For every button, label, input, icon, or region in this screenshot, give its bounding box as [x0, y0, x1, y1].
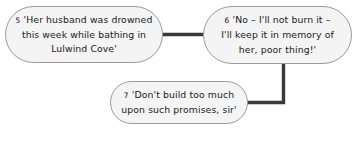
diagram-node-7-number: 7: [124, 91, 129, 100]
diagram-node-5-text: 'Her husband was drowned this week while…: [22, 14, 153, 54]
diagram-node-5-number: 5: [16, 16, 21, 25]
diagram-node-7-text: 'Don't build too much upon such promises…: [121, 89, 236, 115]
diagram-node-5[interactable]: 5 'Her husband was drowned this week whi…: [5, 6, 163, 63]
diagram-node-7[interactable]: 7 'Don't build too much upon such promis…: [110, 81, 248, 124]
connector-6-to-7: [243, 62, 284, 103]
diagram-node-7-label: 7 'Don't build too much upon such promis…: [112, 88, 245, 117]
diagram-node-6-text: 'No – I'll not burn it – I'll keep it in…: [221, 14, 334, 54]
diagram-canvas: 5 'Her husband was drowned this week whi…: [0, 0, 364, 141]
diagram-node-5-label: 5 'Her husband was drowned this week whi…: [7, 13, 162, 57]
diagram-node-6[interactable]: 6 'No – I'll not burn it – I'll keep it …: [203, 6, 352, 64]
diagram-node-6-label: 6 'No – I'll not burn it – I'll keep it …: [212, 13, 343, 57]
diagram-node-6-number: 6: [225, 16, 230, 25]
